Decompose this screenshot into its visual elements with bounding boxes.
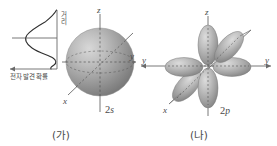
plot-distance-axis-label: 거리 xyxy=(59,11,66,25)
radial-probability-curve xyxy=(26,10,57,69)
axis-label-z-2s: z xyxy=(97,5,101,15)
axis-label-x-2p: x xyxy=(163,105,167,115)
caption-panel-b: (나) xyxy=(190,127,208,142)
caption-panel-a: (가) xyxy=(52,127,70,142)
orbital-label-2p: 2p xyxy=(220,105,230,116)
orbital-figure: 거리 전자 발견 확률 z y x 2s xyxy=(0,0,277,146)
axis-label-y-right-2p: y xyxy=(265,55,269,65)
axis-label-y-2s: y xyxy=(130,51,134,61)
panel-2p-orbital: z y y x 2p xyxy=(139,0,277,146)
panel-2p-graphic xyxy=(139,0,277,146)
plot-probability-axis-label: 전자 발견 확률 xyxy=(10,71,48,81)
orbital-label-2s-letter: s xyxy=(110,105,114,115)
lobe-py-negative xyxy=(165,58,203,77)
axis-label-x-2s: x xyxy=(63,96,67,106)
probability-plot-axes xyxy=(10,10,57,69)
orbital-label-2s: 2s xyxy=(105,104,114,115)
axis-label-y-left-2p: y xyxy=(142,55,146,65)
axis-label-z-2p: z xyxy=(205,7,209,17)
panel-2s-orbital: 거리 전자 발견 확률 z y x 2s xyxy=(0,0,139,146)
orbital-label-2p-letter: p xyxy=(225,106,230,116)
